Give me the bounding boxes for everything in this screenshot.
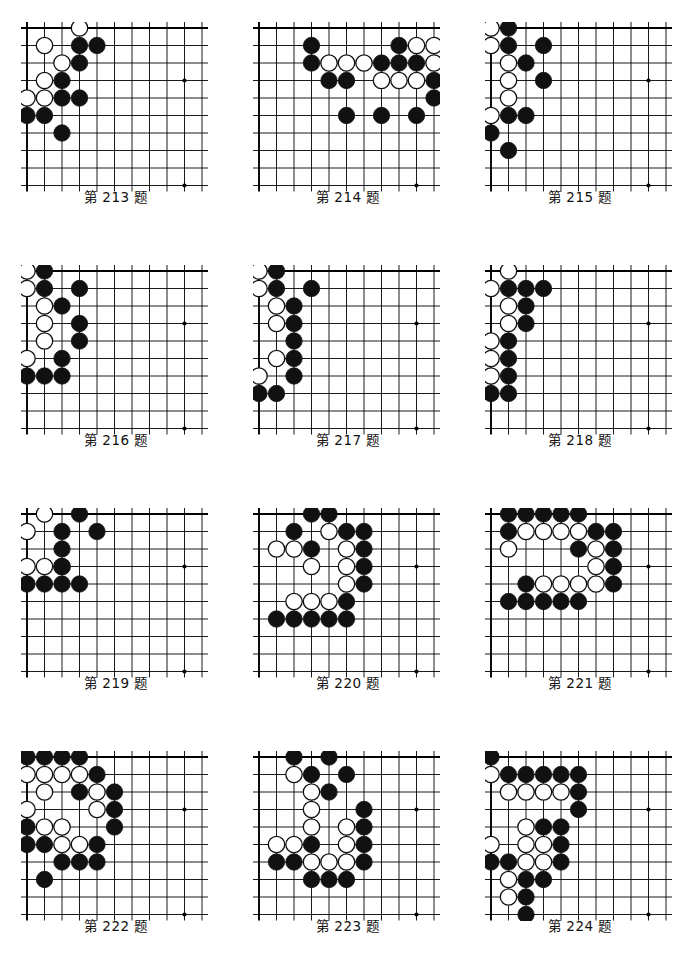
black-stone[interactable] <box>356 541 372 557</box>
black-stone[interactable] <box>535 871 551 887</box>
black-stone[interactable] <box>303 37 319 53</box>
white-stone[interactable] <box>21 265 35 279</box>
white-stone[interactable] <box>426 55 440 71</box>
white-stone[interactable] <box>54 819 70 835</box>
white-stone[interactable] <box>570 576 586 592</box>
white-stone[interactable] <box>535 523 551 539</box>
black-stone[interactable] <box>356 836 372 852</box>
black-stone[interactable] <box>54 125 70 141</box>
go-board[interactable] <box>485 751 675 911</box>
black-stone[interactable] <box>485 854 499 870</box>
black-stone[interactable] <box>535 37 551 53</box>
black-stone[interactable] <box>286 611 302 627</box>
black-stone[interactable] <box>303 766 319 782</box>
go-board[interactable] <box>21 265 211 425</box>
black-stone[interactable] <box>54 558 70 574</box>
white-stone[interactable] <box>518 784 534 800</box>
black-stone[interactable] <box>500 523 516 539</box>
black-stone[interactable] <box>570 801 586 817</box>
black-stone[interactable] <box>356 854 372 870</box>
black-stone[interactable] <box>71 508 87 522</box>
white-stone[interactable] <box>485 333 499 349</box>
white-stone[interactable] <box>268 315 284 331</box>
black-stone[interactable] <box>338 871 354 887</box>
white-stone[interactable] <box>485 350 499 366</box>
white-stone[interactable] <box>321 854 337 870</box>
go-board[interactable] <box>21 751 211 911</box>
white-stone[interactable] <box>36 766 52 782</box>
black-stone[interactable] <box>268 280 284 296</box>
black-stone[interactable] <box>268 265 284 279</box>
black-stone[interactable] <box>268 611 284 627</box>
black-stone[interactable] <box>253 385 267 401</box>
black-stone[interactable] <box>408 55 424 71</box>
black-stone[interactable] <box>356 801 372 817</box>
black-stone[interactable] <box>500 593 516 609</box>
white-stone[interactable] <box>485 37 499 53</box>
white-stone[interactable] <box>54 55 70 71</box>
black-stone[interactable] <box>268 385 284 401</box>
black-stone[interactable] <box>500 368 516 384</box>
black-stone[interactable] <box>71 751 87 765</box>
black-stone[interactable] <box>71 55 87 71</box>
white-stone[interactable] <box>89 801 105 817</box>
black-stone[interactable] <box>518 593 534 609</box>
white-stone[interactable] <box>500 541 516 557</box>
white-stone[interactable] <box>535 854 551 870</box>
white-stone[interactable] <box>535 836 551 852</box>
white-stone[interactable] <box>500 784 516 800</box>
black-stone[interactable] <box>500 107 516 123</box>
white-stone[interactable] <box>373 72 389 88</box>
black-stone[interactable] <box>518 315 534 331</box>
black-stone[interactable] <box>36 871 52 887</box>
black-stone[interactable] <box>89 37 105 53</box>
black-stone[interactable] <box>535 280 551 296</box>
white-stone[interactable] <box>303 801 319 817</box>
black-stone[interactable] <box>485 385 499 401</box>
black-stone[interactable] <box>21 751 35 765</box>
white-stone[interactable] <box>21 523 35 539</box>
black-stone[interactable] <box>89 836 105 852</box>
black-stone[interactable] <box>71 576 87 592</box>
white-stone[interactable] <box>36 508 52 522</box>
white-stone[interactable] <box>500 871 516 887</box>
black-stone[interactable] <box>408 107 424 123</box>
black-stone[interactable] <box>71 280 87 296</box>
white-stone[interactable] <box>303 558 319 574</box>
white-stone[interactable] <box>36 90 52 106</box>
white-stone[interactable] <box>89 784 105 800</box>
black-stone[interactable] <box>321 784 337 800</box>
white-stone[interactable] <box>36 298 52 314</box>
black-stone[interactable] <box>286 315 302 331</box>
white-stone[interactable] <box>21 558 35 574</box>
black-stone[interactable] <box>321 751 337 765</box>
black-stone[interactable] <box>605 558 621 574</box>
white-stone[interactable] <box>570 523 586 539</box>
white-stone[interactable] <box>321 55 337 71</box>
black-stone[interactable] <box>338 766 354 782</box>
black-stone[interactable] <box>518 280 534 296</box>
white-stone[interactable] <box>485 368 499 384</box>
white-stone[interactable] <box>588 541 604 557</box>
black-stone[interactable] <box>356 558 372 574</box>
black-stone[interactable] <box>303 836 319 852</box>
white-stone[interactable] <box>21 350 35 366</box>
black-stone[interactable] <box>373 55 389 71</box>
black-stone[interactable] <box>106 819 122 835</box>
white-stone[interactable] <box>408 37 424 53</box>
white-stone[interactable] <box>36 558 52 574</box>
black-stone[interactable] <box>553 854 569 870</box>
black-stone[interactable] <box>36 265 52 279</box>
black-stone[interactable] <box>54 854 70 870</box>
black-stone[interactable] <box>338 523 354 539</box>
white-stone[interactable] <box>71 836 87 852</box>
black-stone[interactable] <box>303 871 319 887</box>
white-stone[interactable] <box>253 265 267 279</box>
black-stone[interactable] <box>518 766 534 782</box>
white-stone[interactable] <box>54 766 70 782</box>
black-stone[interactable] <box>485 751 499 765</box>
white-stone[interactable] <box>268 298 284 314</box>
white-stone[interactable] <box>338 55 354 71</box>
white-stone[interactable] <box>36 784 52 800</box>
black-stone[interactable] <box>71 784 87 800</box>
